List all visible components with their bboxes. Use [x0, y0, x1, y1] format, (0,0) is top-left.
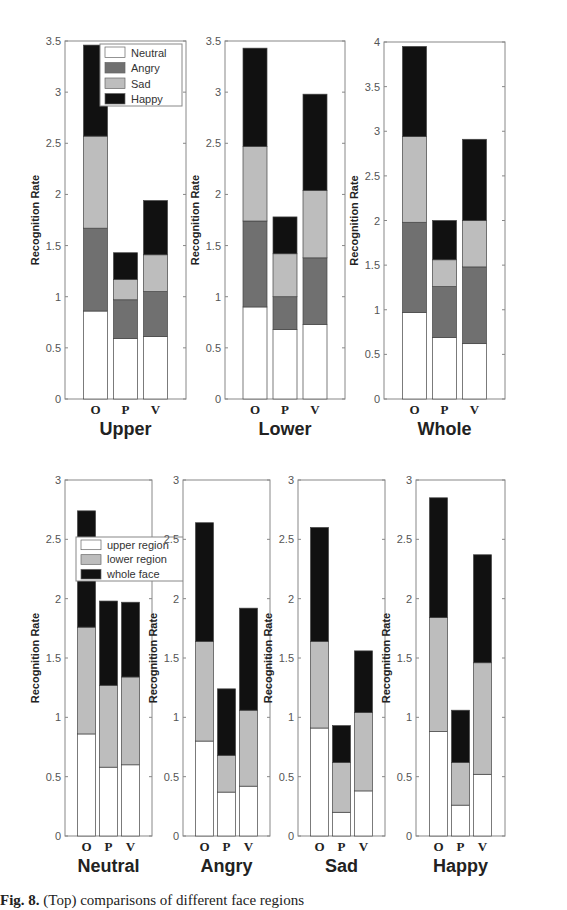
y-tick-label: 3 [55, 474, 61, 486]
x-axis-label: Happy [433, 856, 488, 876]
y-tick-label: 2.5 [46, 533, 61, 545]
bar-segment-happy-v [144, 201, 168, 255]
y-tick-label: 1.5 [164, 652, 179, 664]
x-tick-label: V [478, 839, 488, 854]
y-tick-label: 1 [55, 711, 61, 723]
x-tick-label: V [126, 839, 136, 854]
y-tick-label: 3.5 [46, 35, 61, 47]
y-tick-label: 1.5 [46, 240, 61, 252]
x-tick-label: O [81, 839, 91, 854]
y-tick-label: 1 [406, 711, 412, 723]
bar-segment-lower-region-o [430, 618, 448, 732]
caption-label: Fig. 8. [0, 892, 40, 908]
x-tick-label: V [244, 839, 254, 854]
x-axis-label: Upper [99, 419, 151, 439]
chart-angry: 00.511.522.53Recognition RateOPVAngry [147, 474, 270, 876]
bar-segment-upper-region-p [452, 805, 470, 836]
y-axis-label: Recognition Rate [348, 175, 360, 265]
chart-whole: 00.511.522.533.54Recognition RateOPVWhol… [348, 36, 505, 439]
bar-segment-upper-region-o [430, 732, 448, 836]
x-axis-label: Angry [200, 856, 252, 876]
y-tick-label: 0 [288, 830, 294, 842]
y-tick-label: 0 [55, 393, 61, 405]
bar-segment-neutral-v [144, 337, 168, 399]
bar-segment-lower-region-o [311, 641, 329, 728]
legend-swatch-upper-region [81, 540, 101, 550]
bar-segment-upper-region-v [240, 786, 258, 836]
x-tick-label: O [199, 839, 209, 854]
y-tick-label: 2.5 [164, 533, 179, 545]
bar-segment-lower-region-p [218, 755, 236, 792]
bar-segment-lower-region-o [78, 627, 96, 734]
x-tick-label: O [90, 402, 100, 417]
chart-lower: 00.511.522.533.5Recognition RateOPVLower [189, 35, 345, 439]
y-tick-label: 0.5 [279, 771, 294, 783]
bar-segment-neutral-o [84, 311, 108, 399]
y-tick-label: 0.5 [397, 771, 412, 783]
chart-happy: 00.511.522.53Recognition RateOPVHappy [380, 474, 505, 876]
bar-segment-sad-v [463, 221, 487, 267]
bar-segment-neutral-p [433, 337, 457, 399]
bar-segment-angry-p [273, 297, 297, 330]
bar-segment-whole-face-o [196, 523, 214, 642]
bar-segment-sad-p [433, 260, 457, 287]
bar-segment-sad-v [303, 190, 327, 258]
y-tick-label: 0.5 [46, 771, 61, 783]
y-tick-label: 2 [374, 215, 380, 227]
bar-segment-angry-v [303, 258, 327, 324]
bar-segment-angry-v [463, 267, 487, 344]
y-axis-label: Recognition Rate [147, 613, 159, 703]
y-tick-label: 3 [173, 474, 179, 486]
y-tick-label: 3 [406, 474, 412, 486]
legend-swatch-lower-region [81, 555, 101, 565]
y-tick-label: 2.5 [279, 533, 294, 545]
x-tick-label: O [250, 402, 260, 417]
chart-sad: 00.511.522.53Recognition RateOPVSad [262, 474, 385, 876]
bar-segment-neutral-v [303, 324, 327, 399]
bar-segment-neutral-p [114, 339, 138, 399]
x-tick-label: P [441, 402, 449, 417]
bar-segment-upper-region-o [196, 741, 214, 836]
bar-segment-upper-region-p [100, 767, 118, 836]
bar-segment-neutral-v [463, 344, 487, 399]
y-tick-label: 3 [374, 125, 380, 137]
legend-swatch-whole-face [81, 569, 101, 579]
x-tick-label: O [433, 839, 443, 854]
legend-swatch-neutral [105, 47, 125, 58]
y-tick-label: 0.5 [46, 342, 61, 354]
y-tick-label: 1.5 [46, 652, 61, 664]
bar-segment-whole-face-o [430, 498, 448, 618]
chart-neutral: 00.511.522.53Recognition RateOPVNeutralu… [29, 474, 186, 876]
y-axis-label: Recognition Rate [29, 613, 41, 703]
bar-segment-lower-region-v [474, 663, 492, 775]
x-tick-label: V [359, 839, 369, 854]
y-tick-label: 1 [173, 711, 179, 723]
y-tick-label: 2 [173, 593, 179, 605]
y-tick-label: 2 [55, 593, 61, 605]
y-tick-label: 0 [215, 393, 221, 405]
bar-segment-happy-v [303, 94, 327, 190]
bar-segment-whole-face-p [218, 689, 236, 755]
y-tick-label: 1 [374, 304, 380, 316]
chart-upper: 00.511.522.533.5Recognition RateOPVUpper… [29, 35, 186, 439]
y-tick-label: 2 [288, 593, 294, 605]
bar-segment-whole-face-p [452, 710, 470, 762]
bar-segment-lower-region-v [240, 710, 258, 786]
legend-label: lower region [107, 553, 167, 565]
bar-segment-lower-region-p [333, 762, 351, 812]
bar-segment-whole-face-v [122, 602, 140, 677]
bar-segment-lower-region-p [452, 762, 470, 805]
bar-segment-angry-v [144, 292, 168, 337]
y-tick-label: 0 [173, 830, 179, 842]
y-tick-label: 0 [55, 830, 61, 842]
legend-label: upper region [107, 539, 169, 551]
y-tick-label: 3 [288, 474, 294, 486]
x-axis-label: Sad [325, 856, 358, 876]
y-tick-label: 2 [55, 188, 61, 200]
y-tick-label: 2 [406, 593, 412, 605]
legend-label: whole face [106, 568, 160, 580]
bar-segment-upper-region-o [78, 734, 96, 836]
caption-text: (Top) comparisons of different face regi… [43, 892, 304, 908]
y-axis-label: Recognition Rate [189, 175, 201, 265]
x-tick-label: O [409, 402, 419, 417]
